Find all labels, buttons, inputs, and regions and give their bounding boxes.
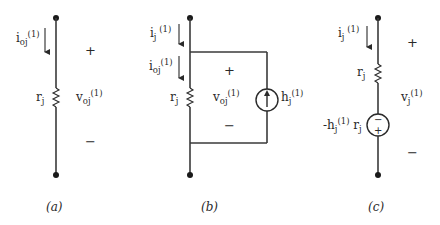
voltage-label: voj(1) [212, 88, 240, 106]
plus-sign: + [407, 35, 418, 50]
minus-sign: − [407, 145, 418, 160]
current-top-label: ij (1) [150, 24, 171, 42]
voltage-label: voj(1) [75, 88, 103, 106]
current-source-icon [256, 89, 278, 111]
voltage-source-icon: − + [367, 114, 389, 136]
minus-sign: − [224, 118, 235, 133]
bottom-node [375, 172, 381, 178]
current-label: ioj(1) [16, 29, 40, 47]
resistor-icon [187, 88, 193, 107]
caption-c: (c) [368, 200, 384, 214]
plus-sign: + [85, 43, 96, 58]
source-label: hj(1) [281, 88, 303, 106]
resistor-icon [53, 88, 59, 107]
current-inner-label: ioj(1) [149, 57, 173, 75]
caption-b: (b) [201, 200, 218, 214]
caption-a: (a) [46, 200, 63, 214]
svg-text:+: + [374, 125, 382, 136]
resistor-label: rj [36, 90, 44, 106]
svg-text:−: − [374, 114, 382, 125]
bottom-node [187, 172, 193, 178]
resistor-label: rj [357, 65, 365, 81]
resistor-label: rj [170, 90, 178, 106]
source-label: -hj(1) rj [323, 116, 362, 134]
minus-sign: − [85, 134, 96, 149]
panel-a: ioj(1) rj voj(1) + − (a) [16, 15, 103, 214]
bottom-node [53, 172, 59, 178]
voltage-label: vj(1) [400, 88, 422, 106]
panel-b: ij (1) ioj(1) rj voj(1) hj(1) + − (b) [149, 15, 303, 214]
circuit-figure: ioj(1) rj voj(1) + − (a) ij (1) ioj(1) r… [0, 0, 440, 225]
plus-sign: + [224, 63, 235, 78]
panel-c: − + ij (1) rj vj(1) -hj(1) rj + − (c) [323, 15, 422, 214]
resistor-icon [375, 64, 381, 83]
current-label: ij (1) [338, 24, 359, 42]
